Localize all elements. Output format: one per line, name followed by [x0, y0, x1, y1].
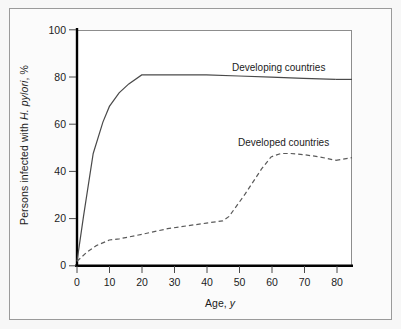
y-axis-title: Persons infected with H. pylori, %: [18, 35, 30, 255]
chart-plot-area: 0 20 40 60 80 100 0 10 20 30 40 50 60 70…: [0, 0, 401, 329]
x-tick-marks: [77, 266, 337, 273]
x-tick-label-80: 80: [325, 276, 349, 288]
y-axis-title-suffix: , %: [18, 65, 30, 80]
x-tick-label-20: 20: [130, 276, 154, 288]
x-tick-label-70: 70: [293, 276, 317, 288]
x-tick-label-40: 40: [195, 276, 219, 288]
y-tick-label-0: 0: [36, 259, 66, 271]
y-tick-marks: [69, 30, 76, 266]
series-label-developing: Developing countries: [232, 62, 325, 73]
x-axis-title: Age, y: [80, 297, 360, 309]
x-tick-label-0: 0: [65, 276, 89, 288]
figure-background: 0 20 40 60 80 100 0 10 20 30 40 50 60 70…: [0, 0, 401, 329]
y-axis-title-prefix: Persons infected with: [18, 120, 30, 225]
y-tick-label-60: 60: [36, 118, 66, 130]
y-tick-label-20: 20: [36, 212, 66, 224]
x-tick-label-60: 60: [260, 276, 284, 288]
y-tick-label-100: 100: [36, 24, 66, 36]
x-axis-title-unit: y: [230, 297, 235, 309]
y-tick-label-80: 80: [36, 71, 66, 83]
y-tick-label-40: 40: [36, 165, 66, 177]
series-label-developed: Developed countries: [238, 137, 329, 148]
x-axis-title-prefix: Age,: [205, 297, 230, 309]
y-axis-title-species: H. pylori: [18, 81, 30, 120]
x-tick-label-50: 50: [228, 276, 252, 288]
x-tick-label-30: 30: [163, 276, 187, 288]
x-tick-label-10: 10: [98, 276, 122, 288]
